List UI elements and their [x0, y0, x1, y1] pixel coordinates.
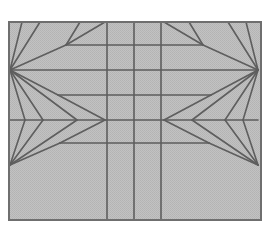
crease-pattern-diagram [0, 0, 279, 240]
crease-pattern-svg [0, 0, 279, 240]
paper-square [9, 22, 261, 220]
